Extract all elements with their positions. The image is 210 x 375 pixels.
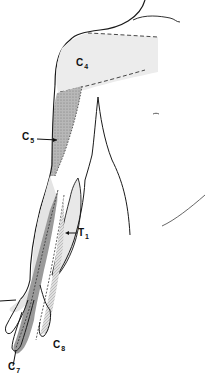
c4-region [56, 33, 158, 92]
axilla-outline [98, 97, 130, 235]
clavicle-line [133, 16, 180, 22]
label-c5-sub: 5 [30, 137, 34, 144]
c6-arrow [0, 300, 16, 301]
label-c4-sub: 4 [84, 63, 88, 70]
label-c7-sub: 7 [16, 367, 20, 374]
label-t1: T1 [78, 228, 89, 240]
label-c8-letter: C [53, 339, 60, 350]
label-c4-letter: C [76, 57, 83, 68]
label-t1-sub: 1 [85, 233, 89, 240]
label-c7-letter: C [8, 361, 15, 372]
label-c7: C7 [8, 362, 20, 374]
arm-medial-outline [85, 97, 98, 180]
nipple-mark [153, 113, 159, 114]
label-t1-letter: T [78, 227, 84, 238]
label-c5: C5 [22, 132, 34, 144]
dermatome-diagram [0, 0, 210, 375]
label-c8-sub: 8 [61, 345, 65, 352]
label-c4: C4 [76, 58, 88, 70]
c5-region [50, 86, 82, 176]
label-c5-letter: C [22, 131, 29, 142]
chest-contour [162, 195, 205, 226]
label-c8: C8 [53, 340, 65, 352]
